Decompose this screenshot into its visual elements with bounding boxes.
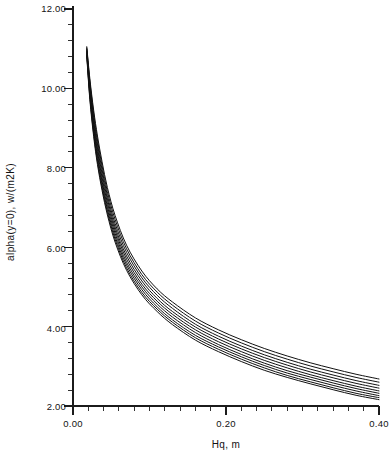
y-tick-label: 12.00: [41, 3, 66, 14]
y-tick-label: 2.00: [47, 401, 66, 412]
chart-background: [0, 0, 390, 455]
y-tick-label: 6.00: [47, 243, 66, 254]
x-tick-label: 0.00: [63, 418, 82, 429]
y-tick-label: 4.00: [47, 323, 66, 334]
x-tick-label: 0.40: [369, 418, 388, 429]
chart-container: 12.00 10.00 8.00 6.00 4.00 2.00 0.00 0.2…: [0, 0, 390, 455]
y-axis-title: alpha(y=0), w/(m2K): [5, 163, 16, 261]
y-tick-label: 8.00: [47, 163, 66, 174]
line-chart: 12.00 10.00 8.00 6.00 4.00 2.00 0.00 0.2…: [0, 0, 390, 455]
x-axis-title: Hq, m: [212, 439, 241, 450]
x-tick-label: 0.20: [216, 418, 235, 429]
y-tick-label: 10.00: [41, 83, 66, 94]
